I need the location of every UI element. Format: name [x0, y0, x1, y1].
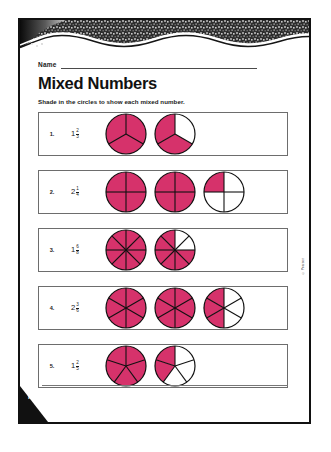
fraction-circle[interactable]	[105, 229, 147, 271]
fraction-circle[interactable]	[154, 345, 196, 387]
worksheet-page: Name Mixed Numbers Shade in the circles …	[18, 18, 311, 424]
fraction-circle[interactable]	[203, 171, 245, 213]
page-code-corner-tab: P14	[20, 386, 56, 422]
problem-row: 5.125	[38, 344, 288, 388]
fraction-circle[interactable]	[105, 113, 147, 155]
problem-number: 1.	[39, 131, 65, 137]
problem-number: 3.	[39, 247, 65, 253]
decorative-torn-banner	[20, 20, 309, 54]
mixed-number-value: 125	[65, 361, 103, 371]
fraction-circle[interactable]	[154, 171, 196, 213]
instruction-text: Shade in the circles to show each mixed …	[38, 98, 185, 105]
problem-number: 5.	[39, 363, 65, 369]
problem-row: 2.214	[38, 170, 288, 214]
name-field-row: Name	[38, 61, 288, 69]
problem-list: 1.1232.2143.1684.2365.125	[38, 112, 288, 402]
whole-number-part: 2	[71, 304, 75, 312]
name-label: Name	[38, 61, 57, 69]
fraction-circle[interactable]	[105, 287, 147, 329]
problem-row: 1.123	[38, 112, 288, 156]
fraction-denominator: 8	[76, 250, 80, 256]
fraction-circle[interactable]	[154, 229, 196, 271]
fraction-circle[interactable]	[203, 287, 245, 329]
problem-row: 4.236	[38, 286, 288, 330]
whole-number-part: 1	[71, 362, 75, 370]
fraction-part: 14	[76, 187, 80, 197]
mixed-number-value: 214	[65, 187, 103, 197]
fraction-circle[interactable]	[105, 345, 147, 387]
fraction-part: 36	[76, 303, 80, 313]
fraction-circle-group	[103, 229, 287, 271]
name-input-line[interactable]	[61, 61, 257, 69]
fraction-denominator: 4	[76, 192, 80, 198]
whole-number-part: 1	[71, 246, 75, 254]
fraction-circle-group	[103, 113, 287, 155]
fraction-denominator: 3	[76, 134, 80, 140]
fraction-circle-group	[103, 345, 287, 387]
fraction-circle-group	[103, 287, 287, 329]
problem-number: 4.	[39, 305, 65, 311]
fraction-circle[interactable]	[154, 287, 196, 329]
mixed-number-value: 168	[65, 245, 103, 255]
fraction-part: 25	[76, 361, 80, 371]
footer-divider	[42, 385, 288, 386]
page-code-label: P14	[28, 393, 40, 400]
whole-number-part: 1	[71, 130, 75, 138]
fraction-circle-group	[103, 171, 287, 213]
problem-number: 2.	[39, 189, 65, 195]
side-credit-text: © Pearson	[301, 258, 305, 275]
fraction-circle[interactable]	[154, 113, 196, 155]
mixed-number-value: 123	[65, 129, 103, 139]
fraction-circle[interactable]	[105, 171, 147, 213]
fraction-denominator: 6	[76, 308, 80, 314]
mixed-number-value: 236	[65, 303, 103, 313]
page-title: Mixed Numbers	[38, 74, 157, 93]
problem-row: 3.168	[38, 228, 288, 272]
fraction-part: 23	[76, 129, 80, 139]
whole-number-part: 2	[71, 188, 75, 196]
fraction-part: 68	[76, 245, 80, 255]
fraction-denominator: 5	[76, 366, 80, 372]
